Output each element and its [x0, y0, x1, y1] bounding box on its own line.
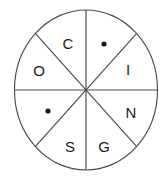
wheel-svg-canvas: C I N G S O: [0, 0, 164, 181]
sector-label-left-upper: O: [33, 62, 45, 79]
sector-label-bottom-left-lower: S: [65, 138, 75, 155]
sector-label-bottom-right-lower: G: [98, 138, 110, 155]
sector-dot-top-right-upper: [101, 41, 106, 46]
sector-label-right-upper: I: [126, 61, 130, 78]
sector-label-top-left-upper: C: [63, 35, 74, 52]
sector-label-right-lower: N: [126, 104, 137, 121]
wheel-diagram: C I N G S O: [0, 0, 164, 181]
sector-dot-left-lower: [45, 108, 50, 113]
